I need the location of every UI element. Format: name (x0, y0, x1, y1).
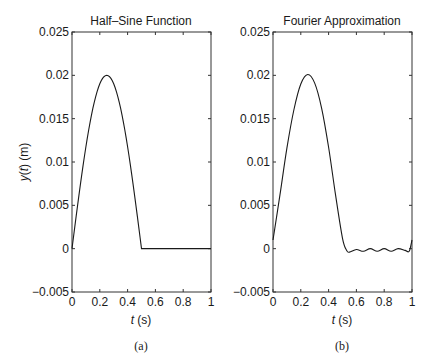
x-tick-label: 0.2 (292, 295, 309, 309)
x-tick-label: 0 (270, 295, 277, 309)
y-tick-label: 0 (62, 242, 69, 256)
panel-a-caption: (a) (134, 339, 147, 353)
x-tick-label: 0.6 (348, 295, 365, 309)
panel-a-title: Half–Sine Function (90, 14, 191, 28)
x-tick-label: 0.2 (91, 295, 108, 309)
half-sine-line (72, 75, 211, 248)
y-tick-label: 0.01 (247, 155, 271, 169)
panel-b-title: Fourier Approximation (283, 14, 400, 28)
panel-a: Half–Sine Function 00.20.40.60.81 −0.005… (17, 14, 215, 353)
y-tick-label: 0.005 (39, 198, 69, 212)
y-tick-label: 0.02 (247, 68, 271, 82)
y-tick-label: 0.01 (46, 155, 70, 169)
y-tick-label: 0.025 (39, 25, 69, 39)
x-tick-label: 0.8 (376, 295, 393, 309)
panel-a-x-tick-labels: 00.20.40.60.81 (69, 295, 215, 309)
x-tick-label: 1 (208, 295, 215, 309)
panel-b-y-tick-labels: −0.00500.0050.010.0150.020.025 (233, 25, 270, 299)
y-tick-label: 0.02 (46, 68, 70, 82)
x-tick-label: 0.8 (175, 295, 192, 309)
y-tick-label: 0.005 (240, 198, 270, 212)
y-tick-label: −0.005 (32, 285, 69, 299)
y-tick-label: 0.025 (240, 25, 270, 39)
x-tick-label: 0.4 (320, 295, 337, 309)
y-tick-label: 0.015 (240, 112, 270, 126)
figure: Half–Sine Function 00.20.40.60.81 −0.005… (0, 0, 431, 361)
panel-a-y-tick-labels: −0.00500.0050.010.0150.020.025 (32, 25, 69, 299)
x-tick-label: 1 (409, 295, 416, 309)
y-tick-label: 0 (263, 242, 270, 256)
panel-b-x-tick-labels: 00.20.40.60.81 (270, 295, 416, 309)
y-axis-label: y(t) (m) (17, 143, 31, 183)
y-tick-label: 0.015 (39, 112, 69, 126)
x-tick-label: 0.4 (119, 295, 136, 309)
panel-b-ticks (273, 32, 412, 292)
y-tick-label: −0.005 (233, 285, 270, 299)
panel-b: Fourier Approximation 00.20.40.60.81 −0.… (233, 14, 416, 353)
panel-b-caption: (b) (335, 339, 349, 353)
fourier-approximation-line (273, 74, 412, 252)
panel-b-axes-box (273, 32, 412, 292)
panel-a-axes-box (72, 32, 211, 292)
panel-a-ticks (72, 32, 211, 292)
panel-a-x-axis-label: t (s) (131, 313, 152, 327)
x-tick-label: 0 (69, 295, 76, 309)
panel-b-x-axis-label: t (s) (332, 313, 353, 327)
x-tick-label: 0.6 (147, 295, 164, 309)
